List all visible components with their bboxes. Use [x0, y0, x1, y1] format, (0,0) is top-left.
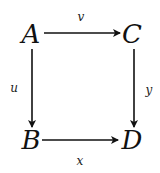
- label-y: y: [146, 84, 153, 96]
- node-c: C: [122, 21, 142, 47]
- node-d: D: [122, 127, 143, 153]
- node-b: B: [21, 127, 40, 153]
- label-x: x: [77, 155, 84, 167]
- node-a: A: [22, 21, 41, 47]
- label-u: u: [10, 82, 18, 94]
- commutative-diagram: A C B D v u y x: [0, 0, 160, 173]
- label-v: v: [78, 11, 85, 23]
